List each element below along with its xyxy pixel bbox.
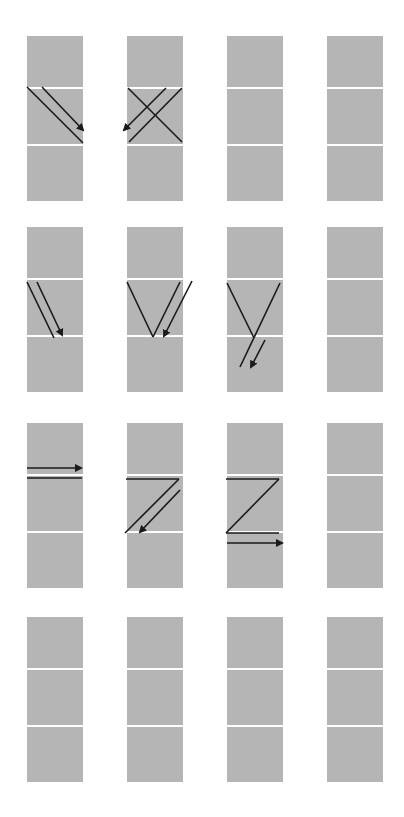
panel-square-1 (227, 36, 283, 87)
panel-square-1 (127, 617, 183, 668)
panel-square-1 (327, 36, 383, 87)
panel-square-1 (27, 36, 83, 87)
panel-r4c2 (127, 617, 183, 782)
panel-square-3 (327, 727, 383, 782)
panel-square-2 (327, 89, 383, 144)
panel-square-1 (127, 36, 183, 87)
panel-square-1 (327, 617, 383, 668)
panel-r2c2 (127, 227, 183, 392)
panel-r1c3 (227, 36, 283, 201)
panel-square-1 (127, 227, 183, 278)
panel-square-2 (327, 280, 383, 335)
panel-square-3 (227, 533, 283, 588)
panel-square-1 (27, 423, 83, 474)
panel-square-1 (327, 423, 383, 474)
panel-square-2 (127, 670, 183, 725)
panel-square-2 (27, 670, 83, 725)
panel-square-1 (227, 227, 283, 278)
panel-r1c1 (27, 36, 83, 201)
panel-square-3 (27, 146, 83, 201)
panel-square-2 (127, 280, 183, 335)
panel-r2c3 (227, 227, 283, 392)
panel-r3c2 (127, 423, 183, 588)
panel-square-3 (127, 146, 183, 201)
panel-square-3 (227, 337, 283, 392)
panel-square-1 (327, 227, 383, 278)
panel-square-1 (127, 423, 183, 474)
panel-square-2 (227, 89, 283, 144)
panel-square-3 (27, 533, 83, 588)
panel-square-3 (127, 727, 183, 782)
panel-square-3 (327, 533, 383, 588)
panel-square-2 (227, 280, 283, 335)
panel-strips (27, 36, 383, 782)
panel-square-2 (27, 89, 83, 144)
panel-square-3 (27, 337, 83, 392)
panel-square-3 (27, 727, 83, 782)
panel-r2c1 (27, 227, 83, 392)
diagram-stage (0, 0, 404, 817)
panel-square-2 (327, 476, 383, 531)
panel-square-3 (327, 337, 383, 392)
panel-square-3 (127, 533, 183, 588)
panel-square-3 (127, 337, 183, 392)
panel-square-3 (227, 727, 283, 782)
panel-r1c4 (327, 36, 383, 201)
panel-square-1 (27, 227, 83, 278)
panel-r3c3 (227, 423, 283, 588)
panel-square-3 (327, 146, 383, 201)
panel-square-2 (27, 280, 83, 335)
panel-r4c4 (327, 617, 383, 782)
panel-r2c4 (327, 227, 383, 392)
panel-r3c4 (327, 423, 383, 588)
panel-square-2 (27, 476, 83, 531)
panel-square-1 (27, 617, 83, 668)
panel-square-1 (227, 423, 283, 474)
panel-r4c3 (227, 617, 283, 782)
panel-square-1 (227, 617, 283, 668)
panel-square-2 (227, 670, 283, 725)
panel-r3c1 (27, 423, 83, 588)
paper-folding-diagram (0, 0, 404, 817)
panel-square-2 (327, 670, 383, 725)
panel-square-3 (227, 146, 283, 201)
panel-r4c1 (27, 617, 83, 782)
